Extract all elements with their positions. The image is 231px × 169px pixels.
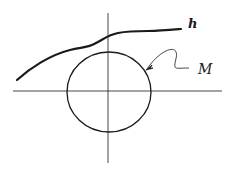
- curve-h: [17, 29, 181, 80]
- curve-label-h: h: [188, 17, 197, 30]
- circle-M: [67, 52, 151, 132]
- circle-label-M: M: [198, 62, 212, 76]
- leader-arrow-M: [147, 49, 189, 69]
